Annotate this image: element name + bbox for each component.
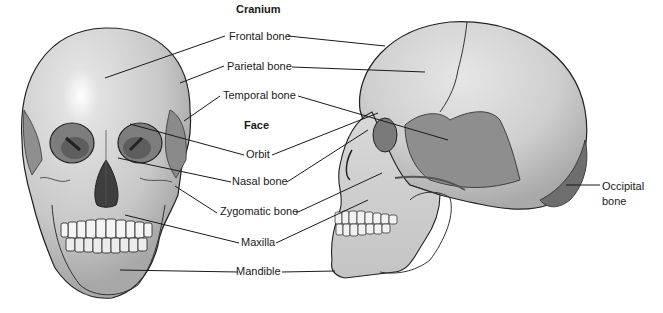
label-zygomatic-bone: Zygomatic bone: [220, 205, 298, 218]
label-parietal-bone: Parietal bone: [227, 60, 292, 73]
anterior-view-skull: [22, 28, 191, 298]
label-temporal-bone: Temporal bone: [223, 89, 296, 102]
label-frontal-bone: Frontal bone: [229, 30, 291, 43]
lateral-view-skull: [332, 22, 587, 278]
label-mandible: Mandible: [236, 265, 281, 278]
label-occipital-line1: Occipital: [602, 180, 644, 193]
lower-teeth: [66, 238, 147, 253]
lateral-orbit: [373, 118, 397, 152]
left-orbit-shadow: [61, 137, 89, 159]
label-nasal-bone: Nasal bone: [232, 175, 288, 188]
skull-diagram: [0, 0, 663, 313]
right-orbit-shadow: [123, 137, 151, 159]
heading-face: Face: [244, 119, 269, 131]
label-maxilla: Maxilla: [241, 236, 275, 249]
label-orbit: Orbit: [246, 148, 270, 161]
label-occipital-line2: bone: [602, 195, 626, 208]
upper-teeth: [61, 219, 152, 238]
lateral-teeth: [335, 211, 397, 236]
heading-cranium: Cranium: [236, 3, 281, 15]
